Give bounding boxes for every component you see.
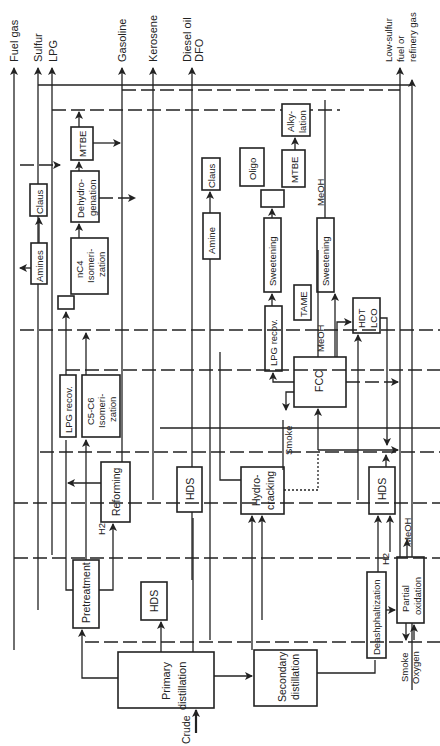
label-smoke-fcc: Smoke bbox=[283, 425, 294, 455]
svg-text:Hydro-: Hydro- bbox=[250, 474, 262, 506]
svg-text:MTBE: MTBE bbox=[289, 157, 300, 183]
unit-sweetening-1: Sweetening bbox=[264, 218, 281, 292]
unit-mtbe-2: MTBE bbox=[282, 150, 305, 187]
svg-text:HDT: HDT bbox=[356, 308, 367, 328]
splitter-box-1 bbox=[58, 296, 74, 309]
svg-text:Oligo: Oligo bbox=[247, 158, 258, 180]
svg-text:Secondary: Secondary bbox=[276, 651, 288, 702]
unit-deasphaltization: Deashphaltization bbox=[367, 572, 386, 658]
svg-text:Amine: Amine bbox=[206, 227, 217, 254]
unit-claus-2: Claus bbox=[202, 158, 220, 190]
svg-text:Alky-: Alky- bbox=[285, 111, 296, 132]
unit-primary-distillation: Primary distillation bbox=[118, 652, 214, 710]
label-low-sulfur-3: refinery gas bbox=[407, 12, 418, 62]
svg-text:Claus: Claus bbox=[206, 163, 217, 188]
svg-text:Dehydro-: Dehydro- bbox=[75, 179, 86, 218]
svg-text:Reforming: Reforming bbox=[110, 467, 122, 516]
svg-text:HDS: HDS bbox=[376, 478, 388, 500]
svg-text:distillation: distillation bbox=[289, 654, 301, 700]
label-low-sulfur-2: fuel or bbox=[395, 36, 406, 62]
unit-oligo: Oligo bbox=[240, 148, 264, 186]
unit-pretreatment: Pretreatment bbox=[73, 560, 99, 628]
unit-fcc: FCC bbox=[294, 357, 346, 407]
svg-text:HDS: HDS bbox=[184, 478, 196, 500]
svg-text:Pretreatment: Pretreatment bbox=[80, 562, 92, 623]
label-fuel-gas: Fuel gas bbox=[8, 19, 20, 62]
svg-text:Partial: Partial bbox=[400, 585, 411, 612]
product-labels: Fuel gas Sulfur LPG Gasoline Kerosene Di… bbox=[8, 12, 418, 62]
label-dfo: DFO bbox=[193, 38, 205, 62]
label-lpg: LPG bbox=[47, 40, 59, 62]
svg-text:oxidation: oxidation bbox=[412, 577, 423, 615]
svg-text:cracking: cracking bbox=[264, 471, 276, 510]
svg-text:Sweetening: Sweetening bbox=[267, 236, 278, 286]
label-oxygen: Oxygen bbox=[410, 651, 421, 684]
svg-text:Isomeri-: Isomeri- bbox=[85, 249, 96, 283]
svg-text:Deashphaltization: Deashphaltization bbox=[371, 579, 382, 655]
stream-crude: Crude bbox=[180, 710, 196, 744]
unit-secondary-distillation: Secondary distillation bbox=[254, 650, 317, 706]
svg-text:zation: zation bbox=[107, 397, 118, 422]
label-smoke-pox: Smoke bbox=[399, 652, 410, 682]
svg-text:zation: zation bbox=[96, 252, 107, 277]
svg-text:TAME: TAME bbox=[298, 291, 309, 317]
svg-text:Primary: Primary bbox=[160, 662, 172, 700]
unit-nc4-isomerization: nC4 Isomeri- zation bbox=[71, 238, 108, 294]
svg-text:lation: lation bbox=[297, 110, 308, 133]
unit-tame: TAME bbox=[294, 285, 311, 320]
svg-text:Isomeri-: Isomeri- bbox=[96, 394, 107, 428]
svg-text:Claus: Claus bbox=[34, 189, 45, 214]
label-kerosene: Kerosene bbox=[147, 15, 159, 62]
splitter-box-2 bbox=[261, 190, 284, 207]
unit-hds-3: HDS bbox=[369, 467, 395, 514]
svg-text:distillation: distillation bbox=[176, 662, 188, 710]
svg-text:Sweetening: Sweetening bbox=[320, 236, 331, 286]
unit-dehydrogenation: Dehydro- genation bbox=[71, 171, 99, 222]
unit-c5c6-isomerization: C5-C6 Isomeri- zation bbox=[82, 375, 120, 437]
unit-lpg-recov-2: LPG recov. bbox=[265, 306, 282, 371]
label-h2-reforming: H2 bbox=[96, 523, 107, 535]
label-gasoline: Gasoline bbox=[116, 19, 128, 62]
label-meoh-fcc: MeOH bbox=[315, 324, 326, 352]
refinery-flow-diagram: Fuel gas Sulfur LPG Gasoline Kerosene Di… bbox=[0, 0, 440, 746]
svg-text:Amines: Amines bbox=[34, 250, 45, 282]
unit-lpg-recov-1: LPG recov. bbox=[60, 375, 76, 437]
unit-mtbe-1: MTBE bbox=[71, 127, 93, 160]
svg-text:genation: genation bbox=[87, 180, 98, 216]
svg-text:LPG recov.: LPG recov. bbox=[268, 319, 279, 366]
label-h2-deasph: H2 bbox=[380, 553, 391, 565]
svg-text:MTBE: MTBE bbox=[77, 131, 88, 157]
unit-partial-oxidation: Partial oxidation bbox=[397, 557, 424, 623]
svg-text:C5-C6: C5-C6 bbox=[85, 398, 96, 425]
svg-text:LPG recov.: LPG recov. bbox=[63, 386, 74, 433]
unit-alkylation: Alky- lation bbox=[282, 104, 310, 136]
unit-reforming: Reforming bbox=[101, 462, 130, 522]
unit-hydrocracking: Hydro- cracking bbox=[241, 467, 284, 514]
label-sulfur: Sulfur bbox=[32, 33, 44, 62]
unit-amines: Amines bbox=[31, 243, 47, 284]
label-diesel-oil: Diesel oil bbox=[181, 17, 193, 62]
unit-claus-1: Claus bbox=[30, 184, 47, 216]
unit-amine: Amine bbox=[203, 213, 220, 259]
svg-text:FCC: FCC bbox=[313, 370, 325, 392]
svg-text:nC4: nC4 bbox=[74, 261, 85, 278]
svg-text:Crude: Crude bbox=[180, 715, 192, 744]
svg-text:LCO: LCO bbox=[368, 308, 379, 328]
label-low-sulfur-1: Low-sulfur bbox=[383, 18, 394, 62]
unit-hds-2: HDS bbox=[177, 467, 202, 512]
svg-text:HDS: HDS bbox=[148, 590, 160, 612]
unit-hds-1: HDS bbox=[141, 582, 167, 620]
unit-hdt-lco: HDT LCO bbox=[353, 298, 380, 333]
unit-sweetening-2: Sweetening bbox=[317, 218, 334, 292]
